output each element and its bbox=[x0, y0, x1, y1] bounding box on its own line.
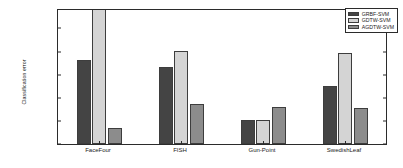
x-tick-label: FaceFour bbox=[85, 147, 111, 153]
x-tick-mark bbox=[99, 141, 100, 144]
bar-chart-figure: Classification error 00.050.10.150.20.25… bbox=[0, 0, 403, 168]
legend-label: GRBF-SVM bbox=[362, 11, 389, 18]
legend-item[interactable]: AGDTW-SVM bbox=[348, 24, 394, 31]
x-tick-label: SwedishLeaf bbox=[327, 147, 361, 153]
legend-item[interactable]: GDTW-SVM bbox=[348, 17, 394, 24]
legend-item[interactable]: GRBF-SVM bbox=[348, 11, 394, 18]
x-tick-mark bbox=[345, 141, 346, 144]
legend-color-swatch bbox=[348, 18, 359, 23]
legend-color-swatch bbox=[348, 12, 359, 17]
y-axis-label-text: Classification error bbox=[21, 42, 27, 122]
y-axis-label: Classification error bbox=[21, 0, 31, 42]
bar-group bbox=[58, 10, 386, 144]
x-tick-label: Gun-Point bbox=[248, 147, 275, 153]
plot-area: 00.050.10.150.20.25 bbox=[57, 9, 387, 145]
x-tick-label: FISH bbox=[173, 147, 187, 153]
bar bbox=[338, 53, 352, 144]
legend-label: GDTW-SVM bbox=[362, 17, 391, 24]
bar bbox=[323, 86, 337, 144]
legend-color-swatch bbox=[348, 25, 359, 30]
bar bbox=[354, 108, 368, 144]
x-tick-mark bbox=[181, 141, 182, 144]
chart-legend: GRBF-SVMGDTW-SVMAGDTW-SVM bbox=[345, 8, 398, 33]
x-tick-mark bbox=[263, 141, 264, 144]
legend-label: AGDTW-SVM bbox=[362, 24, 394, 31]
